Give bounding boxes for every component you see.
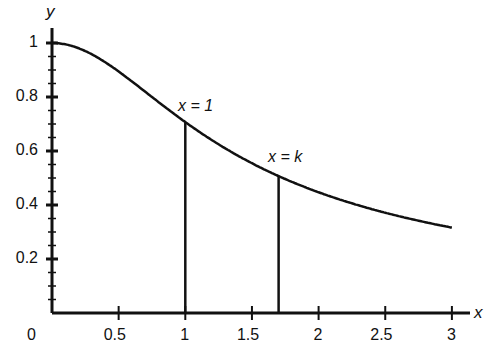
y-axis-label: y — [46, 2, 55, 22]
x-tick-label: 2 — [314, 326, 323, 344]
y-tick-label: 1 — [29, 33, 38, 51]
x-tick-label: 0.5 — [104, 326, 126, 344]
y-tick-label: 0.6 — [16, 141, 38, 159]
y-tick-label: 0.8 — [16, 87, 38, 105]
x-tick-label: 1.5 — [237, 326, 259, 344]
annotation-x-equals-k: x = k — [268, 148, 302, 166]
curve-line — [52, 43, 452, 228]
chart-plot — [0, 0, 485, 355]
y-tick-label: 0.2 — [16, 249, 38, 267]
x-axis-label: x — [474, 303, 483, 323]
origin-label: 0 — [27, 326, 36, 344]
x-tick-label: 2.5 — [370, 326, 392, 344]
x-tick-label: 1 — [180, 326, 189, 344]
y-tick-label: 0.4 — [16, 195, 38, 213]
annotation-x-equals-1: x = 1 — [178, 97, 213, 115]
x-tick-label: 3 — [447, 326, 456, 344]
